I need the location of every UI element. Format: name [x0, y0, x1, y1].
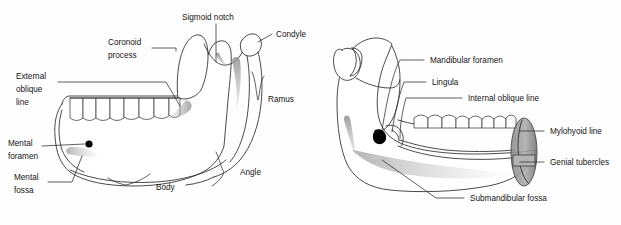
ramus-shading	[232, 57, 241, 112]
label-ramus: Ramus	[268, 95, 294, 104]
label-sigmoid-notch: Sigmoid notch	[182, 13, 234, 22]
label-mental-fossa-line2: fossa	[14, 186, 34, 195]
mandible-anatomy-figure: Sigmoid notch Coronoid process Condyle E…	[0, 0, 621, 225]
teeth-row-medial	[414, 115, 516, 128]
left-mandible-drawing: Sigmoid notch Coronoid process Condyle E…	[8, 13, 306, 195]
label-mental-foramen-line1: Mental	[8, 139, 33, 148]
label-mandibular-foramen: Mandibular foramen	[430, 56, 503, 65]
genial-tubercle-box	[513, 155, 535, 166]
label-mental-foramen-line2: foramen	[8, 152, 38, 161]
teeth-row-lateral	[70, 98, 180, 121]
genial-tubercle-region	[511, 118, 537, 186]
right-mandible-drawing: Mandibular foramen Lingula Internal obli…	[333, 38, 609, 203]
label-mylohyoid-line: Mylohyoid line	[550, 127, 602, 136]
leader-coronoid-process	[152, 48, 176, 51]
mental-foramen-dot	[85, 140, 92, 147]
label-coronoid-process-line2: process	[108, 51, 137, 60]
label-submandibular-fossa: Submandibular fossa	[470, 194, 547, 203]
label-external-oblique-line3: line	[16, 98, 29, 107]
label-body: Body	[156, 183, 176, 192]
label-condyle: Condyle	[276, 30, 306, 39]
label-internal-oblique-line: Internal oblique line	[468, 94, 539, 103]
angle-region-curve	[186, 177, 214, 185]
label-external-oblique-line1: External	[16, 72, 46, 81]
label-angle: Angle	[240, 168, 261, 177]
label-genial-tubercles: Genial tubercles	[550, 158, 609, 167]
label-external-oblique-line2: oblique	[16, 85, 43, 94]
label-lingula: Lingula	[432, 78, 459, 87]
label-mental-fossa-line1: Mental	[14, 173, 39, 182]
label-coronoid-process-line1: Coronoid	[108, 38, 142, 47]
